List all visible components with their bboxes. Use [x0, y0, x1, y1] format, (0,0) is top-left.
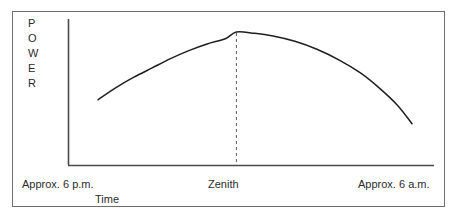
chart-figure: P O W E R Approx. 6 p.m. Zenith Approx. …: [0, 0, 456, 222]
x-tick-label-right: Approx. 6 a.m.: [358, 178, 430, 190]
x-tick-label-zenith: Zenith: [208, 178, 239, 190]
x-tick-label-left: Approx. 6 p.m.: [22, 178, 94, 190]
x-axis-label: Time: [95, 193, 119, 205]
power-curve: [98, 32, 412, 124]
